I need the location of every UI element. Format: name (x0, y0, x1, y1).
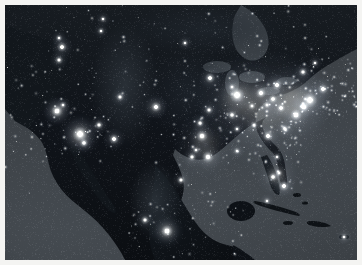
terrain-canadian-shield (125, 5, 285, 55)
terrain-appalachians (255, 87, 299, 147)
satellite-night-lights-image: Composite satellite night-lights image o… (5, 5, 357, 260)
landmass-layer (5, 5, 357, 260)
figure-container: Composite satellite night-lights image o… (0, 0, 362, 265)
region-bahamas-2 (302, 201, 308, 204)
region-yucatan (227, 201, 255, 221)
satellite-photo-frame: Composite satellite night-lights image o… (5, 5, 357, 260)
region-hispaniola (307, 221, 331, 227)
region-bahamas-1 (293, 193, 301, 197)
region-cuba (253, 201, 299, 216)
region-central-america (233, 245, 255, 260)
terrain-great-plains (145, 47, 237, 139)
terrain-sierra-madre (129, 161, 181, 241)
region-jamaica (283, 221, 293, 225)
region-puerto-rico (339, 235, 349, 239)
region-caribbean-islands (227, 193, 349, 239)
